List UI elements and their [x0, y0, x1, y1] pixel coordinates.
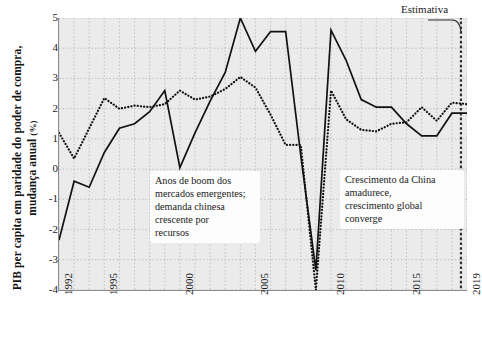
x-tick-label: 1995: [107, 273, 119, 295]
estimate-leader-path: [428, 20, 461, 32]
annotation-line: crescente por: [155, 213, 255, 226]
annotation-line: amadurece,: [345, 186, 459, 199]
annotation-line: Anos de boom dos: [155, 174, 255, 187]
boom-years-annotation: Anos de boom dosmercados emergentes;dema…: [150, 171, 260, 243]
annotation-line: converge: [345, 212, 459, 225]
x-tick-label: 2010: [334, 273, 346, 295]
x-tick-label: 2005: [258, 273, 270, 295]
x-tick-label: 2015: [410, 273, 422, 295]
estimate-leader-line: [426, 10, 466, 40]
annotation-line: recursos: [155, 226, 255, 239]
annotation-line: Crescimento da China: [345, 173, 459, 186]
china-maturing-annotation: Crescimento da Chinaamadurece,cresciment…: [340, 170, 464, 229]
annotation-line: mercados emergentes;: [155, 187, 255, 200]
x-tick-label: 2019: [470, 273, 482, 295]
annotation-line: crescimento global: [345, 199, 459, 212]
x-tick-label: 1992: [62, 273, 74, 295]
x-tick-label: 2000: [183, 273, 195, 295]
annotation-line: demanda chinesa: [155, 200, 255, 213]
